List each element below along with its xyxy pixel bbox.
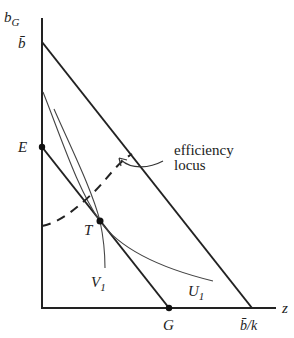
- T-label: T: [84, 222, 94, 238]
- efficiency-locus-label-line2: locus: [174, 157, 206, 173]
- b-bar-label: b̄: [18, 35, 26, 51]
- x-axis-label: z: [281, 300, 288, 316]
- efficiency-locus-label-line1: efficiency: [174, 142, 234, 158]
- b-bar-over-k-label: b̄/k: [240, 318, 258, 333]
- outer-budget-line: [42, 42, 252, 308]
- point-T: [97, 218, 104, 225]
- U1-curve: [43, 92, 213, 281]
- efficiency-locus-pointer: [121, 160, 163, 167]
- V1-label: V1: [91, 274, 106, 293]
- point-E: [39, 144, 45, 150]
- y-axis-label: bG: [4, 9, 20, 28]
- E-label: E: [17, 139, 27, 155]
- U1-label: U1: [188, 283, 204, 302]
- point-G: [166, 305, 172, 311]
- diagram-canvas: bG z b̄ b̄/k E G U1 V1 T efficiency locu…: [0, 0, 294, 338]
- G-label: G: [163, 317, 174, 333]
